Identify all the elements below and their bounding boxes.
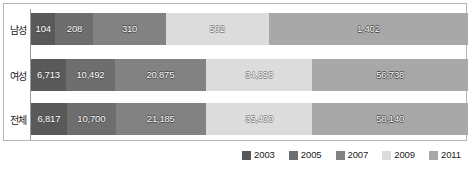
segment-value-label: 21,185 bbox=[147, 114, 175, 124]
segment-value-label: 10,492 bbox=[76, 70, 104, 80]
legend-item-2011[interactable]: 2011 bbox=[429, 150, 461, 160]
bar-segment-2005: 208 bbox=[55, 13, 93, 45]
segment-value-label: 1,402 bbox=[357, 24, 380, 34]
segment-value-label: 10,700 bbox=[77, 114, 105, 124]
bar-segment-2011: 1,402 bbox=[269, 13, 468, 45]
bar-row: 전체6,81710,70021,18535,40058,140 bbox=[4, 103, 468, 135]
bar-segment-2003: 104 bbox=[31, 13, 55, 45]
legend-swatch-icon bbox=[382, 151, 391, 160]
legend-label: 2009 bbox=[394, 150, 415, 160]
legend-swatch-icon bbox=[429, 151, 438, 160]
legend-item-2003[interactable]: 2003 bbox=[242, 150, 275, 160]
bar-stack: 6,71310,49220,87534,89856,738 bbox=[31, 59, 468, 91]
category-label: 남성 bbox=[4, 13, 29, 45]
bar-segment-2009: 34,898 bbox=[206, 59, 313, 91]
bar-segment-2009: 35,400 bbox=[206, 103, 313, 135]
bar-stack: 1042083105021,402 bbox=[31, 13, 468, 45]
legend-item-2009[interactable]: 2009 bbox=[382, 150, 415, 160]
bar-segment-2005: 10,700 bbox=[67, 103, 116, 135]
bar-stack: 6,81710,70021,18535,40058,140 bbox=[31, 103, 468, 135]
bar-segment-2011: 58,140 bbox=[312, 103, 468, 135]
category-label: 여성 bbox=[4, 59, 29, 91]
bar-segment-2011: 56,738 bbox=[312, 59, 468, 91]
bar-segment-2009: 502 bbox=[166, 13, 269, 45]
segment-value-label: 104 bbox=[36, 24, 51, 34]
legend-label: 2005 bbox=[301, 150, 322, 160]
legend-label: 2003 bbox=[254, 150, 275, 160]
bar-segment-2003: 6,817 bbox=[31, 103, 67, 135]
legend-item-2005[interactable]: 2005 bbox=[289, 150, 322, 160]
bar-rows: 남성1042083105021,402여성6,71310,49220,87534… bbox=[4, 4, 468, 142]
bar-segment-2003: 6,713 bbox=[31, 59, 66, 91]
segment-value-label: 6,817 bbox=[38, 114, 61, 124]
segment-value-label: 35,400 bbox=[245, 114, 273, 124]
bar-row: 남성1042083105021,402 bbox=[4, 13, 468, 45]
category-label: 전체 bbox=[4, 103, 29, 135]
legend-swatch-icon bbox=[336, 151, 345, 160]
segment-value-label: 502 bbox=[210, 24, 225, 34]
segment-value-label: 6,713 bbox=[37, 70, 60, 80]
segment-value-label: 208 bbox=[67, 24, 82, 34]
plot-frame: 남성1042083105021,402여성6,71310,49220,87534… bbox=[3, 3, 467, 141]
segment-value-label: 58,140 bbox=[376, 114, 404, 124]
legend-item-2007[interactable]: 2007 bbox=[336, 150, 369, 160]
stacked-bar-chart: 남성1042083105021,402여성6,71310,49220,87534… bbox=[0, 0, 470, 171]
segment-value-label: 34,898 bbox=[245, 70, 273, 80]
bar-segment-2005: 10,492 bbox=[66, 59, 115, 91]
segment-value-label: 20,875 bbox=[146, 70, 174, 80]
segment-value-label: 310 bbox=[122, 24, 137, 34]
legend-label: 2007 bbox=[348, 150, 369, 160]
bar-segment-2007: 310 bbox=[93, 13, 165, 45]
legend-label: 2011 bbox=[441, 150, 461, 160]
bar-segment-2007: 21,185 bbox=[116, 103, 206, 135]
chart-legend: 20032005200720092011 bbox=[0, 146, 470, 164]
legend-swatch-icon bbox=[289, 151, 298, 160]
legend-swatch-icon bbox=[242, 151, 251, 160]
bar-segment-2007: 20,875 bbox=[115, 59, 206, 91]
segment-value-label: 56,738 bbox=[376, 70, 404, 80]
bar-row: 여성6,71310,49220,87534,89856,738 bbox=[4, 59, 468, 91]
